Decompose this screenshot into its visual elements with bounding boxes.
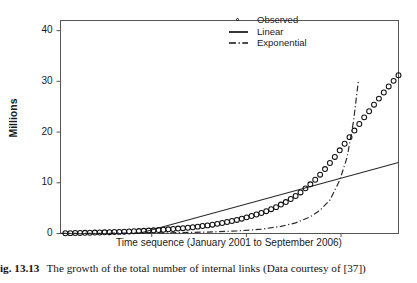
observed-data-point [166, 227, 171, 232]
observed-data-point [274, 205, 279, 210]
y-tick-label-20: 20 [31, 126, 53, 137]
solid-line-icon [228, 26, 252, 37]
observed-data-point [381, 90, 386, 95]
observed-data-point [386, 84, 391, 89]
observed-data-point [234, 217, 239, 222]
observed-data-point [352, 128, 357, 133]
observed-data-point [332, 154, 337, 159]
observed-data-point [367, 109, 372, 114]
figure-caption: ig. 13.13The growth of the total number … [0, 262, 417, 274]
observed-data-point [391, 78, 396, 83]
figure-caption-text: The growth of the total number of intern… [46, 262, 365, 274]
observed-data-point [278, 202, 283, 207]
observed-data-point [323, 167, 328, 172]
observed-data-point [342, 141, 347, 146]
observed-data-point [269, 207, 274, 212]
series-observed-markers [63, 73, 401, 236]
figure-container: 010203040 Millions Time sequence (Januar… [0, 0, 417, 283]
x-axis-title: Time sequence (January 2001 to September… [60, 237, 398, 248]
observed-data-point [239, 216, 244, 221]
chart-plot-area: 010203040 Millions Time sequence (Januar… [0, 0, 417, 250]
observed-data-point [372, 102, 377, 107]
observed-data-point [102, 230, 107, 235]
y-tick-label-40: 40 [31, 24, 53, 35]
circle-marker-icon [228, 14, 252, 25]
observed-data-point [288, 197, 293, 202]
figure-number: ig. 13.13 [0, 262, 39, 274]
observed-data-point [376, 96, 381, 101]
observed-data-point [298, 190, 303, 195]
observed-data-point [230, 219, 235, 224]
plot-frame [61, 21, 399, 234]
series-linear-line [139, 163, 399, 234]
legend-label-observed: Observed [257, 14, 298, 26]
observed-data-point [362, 115, 367, 120]
observed-data-point [264, 209, 269, 214]
observed-data-point [92, 230, 97, 235]
legend-item-linear: Linear [228, 26, 307, 38]
y-axis-title: Millions [7, 88, 19, 148]
observed-data-point [225, 220, 230, 225]
series-exponential-line [61, 81, 359, 233]
chart-svg [0, 0, 417, 250]
y-tick-label-0: 0 [31, 227, 53, 238]
y-tick-label-30: 30 [31, 75, 53, 86]
observed-data-point [205, 223, 210, 228]
observed-data-point [313, 177, 318, 182]
observed-data-point [185, 225, 190, 230]
observed-data-point [171, 227, 176, 232]
observed-data-point [337, 148, 342, 153]
legend-item-exponential: Exponential [228, 37, 307, 49]
observed-data-point [244, 215, 249, 220]
observed-data-point [259, 211, 264, 216]
observed-data-point [161, 227, 166, 232]
observed-data-point [210, 222, 215, 227]
observed-data-point [215, 221, 220, 226]
observed-data-point [318, 172, 323, 177]
observed-data-point [176, 226, 181, 231]
observed-data-point [181, 226, 186, 231]
chart-legend: Observed Linear Exponential [228, 14, 307, 49]
observed-data-point [283, 200, 288, 205]
legend-label-linear: Linear [257, 26, 283, 38]
y-axis-ticks [57, 31, 61, 234]
legend-item-observed: Observed [228, 14, 307, 26]
dash-dot-line-icon [228, 37, 252, 48]
observed-data-point [220, 221, 225, 226]
observed-data-point [97, 230, 102, 235]
observed-data-point [254, 212, 259, 217]
legend-label-exponential: Exponential [257, 37, 307, 49]
observed-data-point [293, 194, 298, 199]
observed-data-point [195, 224, 200, 229]
observed-data-point [190, 225, 195, 230]
observed-data-point [327, 161, 332, 166]
observed-data-point [249, 214, 254, 219]
observed-data-point [200, 224, 205, 229]
observed-data-point [357, 122, 362, 127]
y-tick-label-10: 10 [31, 176, 53, 187]
